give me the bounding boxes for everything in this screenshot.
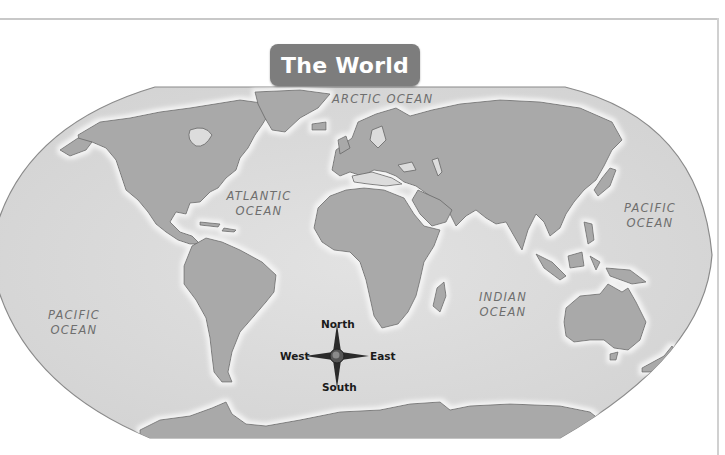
- compass-east-label: East: [370, 350, 396, 362]
- label-pacific-ocean-east: PACIFIC OCEAN: [610, 201, 690, 231]
- label-indian-line1: INDIAN: [463, 290, 543, 305]
- label-atlantic-ocean: ATLANTIC OCEAN: [214, 189, 304, 219]
- label-pacific-east-line2: OCEAN: [610, 216, 690, 231]
- label-pacific-west-line2: OCEAN: [34, 323, 114, 338]
- map-title: The World: [281, 53, 409, 78]
- compass-north-label: North: [321, 318, 355, 330]
- label-pacific-ocean-west: PACIFIC OCEAN: [34, 308, 114, 338]
- compass-west-label: West: [280, 350, 310, 362]
- compass-south-label: South: [322, 381, 357, 393]
- label-atlantic-line2: OCEAN: [214, 204, 304, 219]
- label-indian-line2: OCEAN: [463, 305, 543, 320]
- label-arctic-ocean: ARCTIC OCEAN: [332, 92, 433, 107]
- label-pacific-west-line1: PACIFIC: [34, 308, 114, 323]
- label-atlantic-line1: ATLANTIC: [214, 189, 304, 204]
- map-title-banner: The World: [270, 44, 420, 86]
- label-pacific-east-line1: PACIFIC: [610, 201, 690, 216]
- label-indian-ocean: INDIAN OCEAN: [463, 290, 543, 320]
